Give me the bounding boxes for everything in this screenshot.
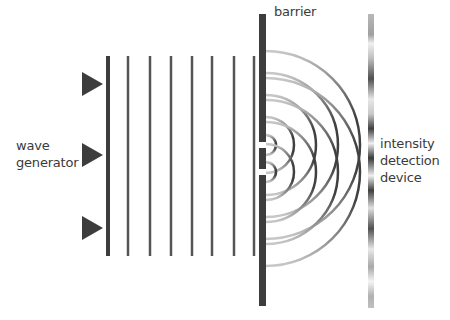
barrier-label: barrier bbox=[274, 3, 316, 20]
wave-generator-emitters bbox=[82, 72, 103, 240]
play-triangle-icon bbox=[82, 216, 103, 240]
barrier-segment bbox=[259, 175, 266, 306]
play-triangle-icon bbox=[82, 72, 103, 96]
detector-label-line-1: intensity bbox=[380, 135, 440, 152]
circular-wavefronts bbox=[266, 51, 360, 266]
intensity-detection-device bbox=[368, 14, 374, 308]
detector-label-line-2: detection bbox=[380, 152, 440, 169]
detector-label-line-3: device bbox=[380, 169, 440, 186]
play-triangle-icon bbox=[82, 143, 103, 167]
barrier-label-text: barrier bbox=[274, 3, 316, 20]
wave-generator-label: wave generator bbox=[16, 137, 78, 171]
barrier-wall bbox=[259, 14, 266, 306]
detector-label: intensity detection device bbox=[380, 135, 440, 186]
wave-generator-label-line-2: generator bbox=[16, 154, 78, 171]
plane-wavefronts bbox=[108, 56, 254, 256]
wave-generator-label-line-1: wave bbox=[16, 137, 78, 154]
barrier-segment bbox=[259, 148, 266, 169]
barrier-segment bbox=[259, 14, 266, 142]
